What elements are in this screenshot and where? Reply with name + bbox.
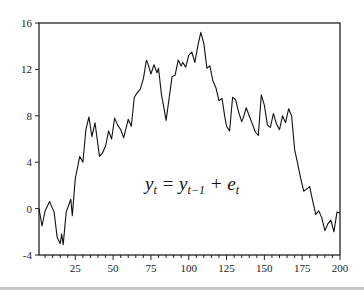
x-tick-label: 100	[180, 262, 197, 274]
x-tick-label: 75	[145, 262, 157, 274]
random-walk-chart: -40481216 255075100125150175200 yt = yt−…	[0, 0, 364, 290]
y-tick-label: 8	[27, 110, 33, 122]
series-line	[39, 32, 340, 244]
equation-annotation: yt = yt−1 + et	[143, 173, 240, 197]
plot-frame	[39, 23, 340, 255]
x-tick-label: 125	[218, 262, 235, 274]
x-tick-label: 175	[294, 262, 311, 274]
y-tick-label: 12	[21, 63, 32, 75]
x-tick-label: 25	[70, 262, 82, 274]
y-tick-label: 4	[27, 156, 33, 168]
x-tick-label: 200	[332, 262, 349, 274]
y-tick-label: 0	[27, 203, 33, 215]
y-tick-label: 16	[21, 17, 33, 29]
x-tick-label: 50	[108, 262, 120, 274]
y-axis: -40481216	[21, 17, 39, 261]
x-axis: 255075100125150175200	[45, 255, 349, 274]
x-tick-label: 150	[256, 262, 273, 274]
y-tick-label: -4	[23, 249, 33, 261]
